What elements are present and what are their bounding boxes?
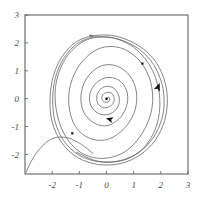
y-axis-label-2: 2 <box>0 38 19 47</box>
x-axis-label-1: 1 <box>131 181 136 190</box>
marker-initial-condition-lower-left <box>71 132 73 134</box>
y-axis-label-3: 3 <box>0 11 19 20</box>
y-axis-label--1: -1 <box>0 122 19 131</box>
marker-fixed-point <box>105 97 108 100</box>
marker-initial-condition-upper-right <box>141 62 143 64</box>
phase-portrait-plot <box>0 0 206 204</box>
x-axis-label-2: 2 <box>159 181 164 190</box>
x-axis-label--2: -2 <box>48 181 56 190</box>
x-axis-label-0: 0 <box>104 181 109 190</box>
plot-background <box>0 0 206 204</box>
y-axis-label-1: 1 <box>0 66 19 75</box>
x-axis-label--1: -1 <box>76 181 84 190</box>
x-axis-label-3: 3 <box>186 181 191 190</box>
phase-portrait-screenshot: -2-10123 -2-10123 <box>0 0 206 204</box>
y-axis-label-0: 0 <box>0 94 19 103</box>
y-axis-label--2: -2 <box>0 150 19 159</box>
